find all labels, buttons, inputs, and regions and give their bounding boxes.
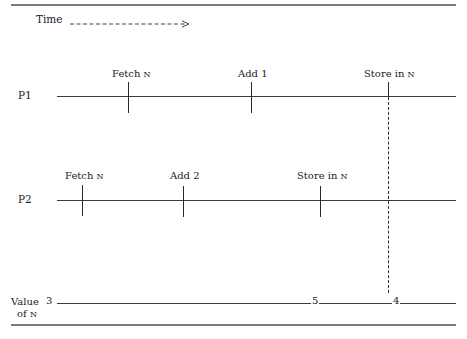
p1-event-add-label: Add 1 (238, 68, 268, 80)
value-after-p1-store: 4 (392, 295, 400, 307)
p2-event-add-tick (183, 186, 184, 217)
value-label-line1: Value (11, 296, 39, 308)
p2-event-add-label: Add 2 (170, 170, 200, 182)
p1-event-store-tick (388, 82, 389, 97)
process-label-p1: P1 (18, 89, 32, 101)
store-dashed-connector (388, 97, 389, 293)
value-label-line2: of N (17, 308, 37, 321)
time-arrow-icon (70, 14, 194, 24)
p2-event-store-tick (320, 186, 321, 217)
p2-timeline (57, 200, 456, 201)
p2-event-fetch-tick (82, 185, 83, 216)
time-label: Time (36, 13, 63, 25)
p2-event-store-label: Store in N (297, 170, 348, 183)
p2-event-fetch-label: Fetch N (65, 170, 104, 183)
p1-event-fetch-label: Fetch N (112, 68, 151, 81)
p1-event-store-label: Store in N (364, 68, 415, 81)
top-rule (11, 4, 456, 6)
p1-timeline (57, 96, 456, 97)
process-label-p2: P2 (18, 193, 32, 205)
value-after-p2-store: 5 (311, 295, 319, 307)
p1-event-add-tick (251, 82, 252, 113)
bottom-rule (11, 324, 456, 326)
value-initial: 3 (45, 295, 53, 307)
p1-event-fetch-tick (128, 82, 129, 113)
